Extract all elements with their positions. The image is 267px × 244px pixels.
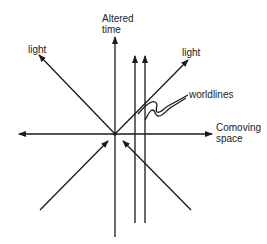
light-ray-lower-right: [123, 141, 191, 210]
worldlines-pointer-2: [145, 98, 186, 120]
worldlines-label: worldlines: [189, 89, 233, 100]
space-axis-label: Comoving space: [216, 122, 261, 144]
origin-point: [113, 132, 117, 136]
light-ray-lower-left: [40, 141, 108, 210]
time-axis-label: Altered time: [102, 13, 134, 35]
light-ray-upper-right: [115, 60, 188, 134]
light-label-right: light: [182, 47, 200, 58]
spacetime-diagram: Altered time light light worldlines Como…: [0, 0, 267, 244]
light-ray-upper-left: [39, 55, 115, 134]
light-label-left: light: [28, 44, 46, 55]
